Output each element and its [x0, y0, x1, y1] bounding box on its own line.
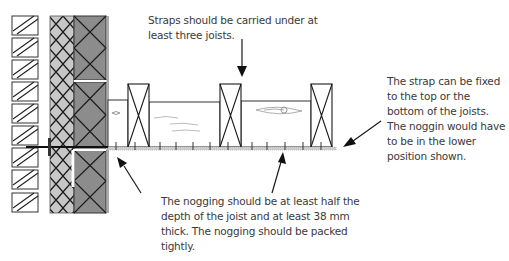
internal-block-leaf: [73, 16, 108, 213]
annotation-nogging: The nogging should be at least half the …: [161, 194, 361, 254]
annotation-strap-fix: The strap can be fixed to the top or the…: [387, 74, 509, 164]
annotation-straps: Straps should be carried under at least …: [148, 13, 318, 43]
cavity-insulation: [50, 16, 74, 213]
external-brick-leaf: [12, 16, 38, 212]
